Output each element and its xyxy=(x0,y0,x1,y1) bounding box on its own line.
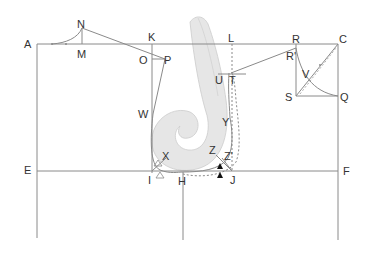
pattern-drafting-diagram: A N M K O P W L R R' C U T V S Q Y X Z Z… xyxy=(0,0,369,260)
label-R: R xyxy=(292,34,300,45)
notch-triangle xyxy=(156,172,164,178)
label-P: P xyxy=(164,55,171,66)
label-X: X xyxy=(162,151,169,162)
notch-marker xyxy=(217,172,223,178)
label-L: L xyxy=(228,33,234,44)
label-A: A xyxy=(24,39,31,50)
label-Z: Z xyxy=(209,145,216,156)
label-V: V xyxy=(302,69,309,80)
label-Z-prime: Z' xyxy=(224,151,233,162)
label-S: S xyxy=(285,92,292,103)
label-M: M xyxy=(77,49,86,60)
label-O: O xyxy=(139,55,148,66)
label-Y: Y xyxy=(222,117,229,128)
label-U: U xyxy=(215,75,223,86)
label-R-prime: R' xyxy=(286,51,296,62)
label-T: T xyxy=(229,75,236,86)
label-C: C xyxy=(339,34,347,45)
label-J: J xyxy=(230,175,236,186)
label-H: H xyxy=(178,176,186,187)
label-W: W xyxy=(138,109,148,120)
label-N: N xyxy=(77,19,85,30)
label-Q: Q xyxy=(340,92,349,103)
label-I: I xyxy=(148,175,151,186)
label-E: E xyxy=(24,165,31,176)
diagram-canvas xyxy=(0,0,369,260)
label-K: K xyxy=(148,32,155,43)
label-F: F xyxy=(343,166,350,177)
